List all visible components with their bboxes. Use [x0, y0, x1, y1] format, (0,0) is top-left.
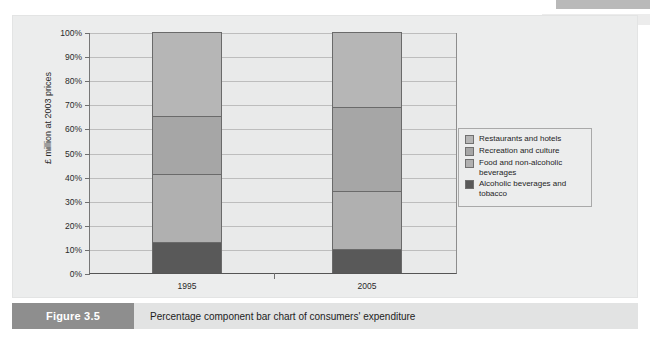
bar-segment[interactable] [152, 242, 222, 273]
plot-area: 0%10%20%30%40%50%60%70%80%90%100% 199520… [89, 33, 457, 274]
y-axis-tick-mark [85, 81, 90, 82]
y-axis-tick-label: 10% [65, 245, 82, 255]
bar-segment[interactable] [332, 32, 402, 107]
y-axis-tick-label: 60% [65, 124, 82, 134]
legend-swatch-icon [465, 135, 474, 144]
legend-item-label: Food and non-alcoholic beverages [479, 158, 585, 177]
top-right-tab-dark [556, 0, 650, 9]
y-axis-tick-mark [85, 178, 90, 179]
figure-caption-bar: Figure 3.5 Percentage component bar char… [12, 303, 638, 329]
bar-segment[interactable] [152, 174, 222, 241]
y-axis-tick-mark [85, 250, 90, 251]
y-axis-tick-mark [85, 129, 90, 130]
y-axis-tick-mark [85, 226, 90, 227]
x-axis-tick-label: 2005 [358, 281, 377, 291]
figure-card: £ million at 2003 prices 0%10%20%30%40%5… [12, 15, 638, 298]
y-axis-tick-label: 0% [70, 269, 82, 279]
legend-item[interactable]: Recreation and culture [465, 146, 585, 156]
y-axis-tick-mark [85, 154, 90, 155]
bar-segment[interactable] [152, 116, 222, 174]
y-axis-tick-label: 40% [65, 173, 82, 183]
y-axis-tick-label: 100% [60, 28, 82, 38]
x-axis-tick-label: 1995 [178, 281, 197, 291]
bar-segment[interactable] [332, 249, 402, 273]
legend-item-label: Alcoholic beverages and tobacco [479, 179, 585, 198]
bar-segment[interactable] [332, 107, 402, 191]
figure-number-tag: Figure 3.5 [12, 303, 134, 329]
y-axis-tick-mark [85, 33, 90, 34]
x-axis-tick-mark [274, 273, 275, 279]
legend-item-label: Recreation and culture [479, 146, 560, 156]
y-axis-tick-label: 30% [65, 197, 82, 207]
legend-swatch-icon [465, 147, 474, 156]
y-axis-tick-label: 20% [65, 221, 82, 231]
y-axis-tick-mark [85, 274, 90, 275]
bar-segment[interactable] [152, 32, 222, 116]
legend-item[interactable]: Alcoholic beverages and tobacco [465, 179, 585, 198]
legend-swatch-icon [465, 180, 474, 189]
y-axis-tick-mark [85, 105, 90, 106]
figure-caption-text: Percentage component bar chart of consum… [134, 303, 638, 329]
legend-item[interactable]: Restaurants and hotels [465, 134, 585, 144]
chart-legend: Restaurants and hotelsRecreation and cul… [458, 128, 592, 207]
y-axis-tick-label: 90% [65, 52, 82, 62]
y-axis-tick-label: 80% [65, 76, 82, 86]
stacked-bar[interactable] [332, 32, 402, 273]
legend-swatch-icon [465, 159, 474, 168]
y-axis-tick-label: 70% [65, 100, 82, 110]
y-axis-tick-label: 50% [65, 149, 82, 159]
y-axis-tick-mark [85, 57, 90, 58]
legend-item[interactable]: Food and non-alcoholic beverages [465, 158, 585, 177]
legend-item-label: Restaurants and hotels [479, 134, 561, 144]
stacked-bar[interactable] [152, 32, 222, 273]
y-axis-title: £ million at 2003 prices [43, 72, 53, 164]
bar-segment[interactable] [332, 191, 402, 249]
y-axis-tick-mark [85, 202, 90, 203]
